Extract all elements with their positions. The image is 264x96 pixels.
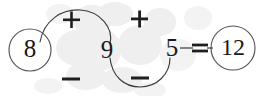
- node-label-result: 12: [221, 34, 245, 60]
- equals-sign: [192, 44, 208, 53]
- operator-minus-bottom-left: [62, 78, 80, 81]
- diagram-canvas: 8 9 5 12 + + − − =: [0, 0, 264, 96]
- node-label-end: 5: [166, 34, 179, 61]
- node-label-mid: 9: [101, 36, 114, 63]
- node-label-start: 8: [24, 35, 37, 62]
- operator-minus-bottom-right: [131, 77, 149, 80]
- number-bond-diagram: 8 9 5 12 + + − − =: [0, 0, 264, 96]
